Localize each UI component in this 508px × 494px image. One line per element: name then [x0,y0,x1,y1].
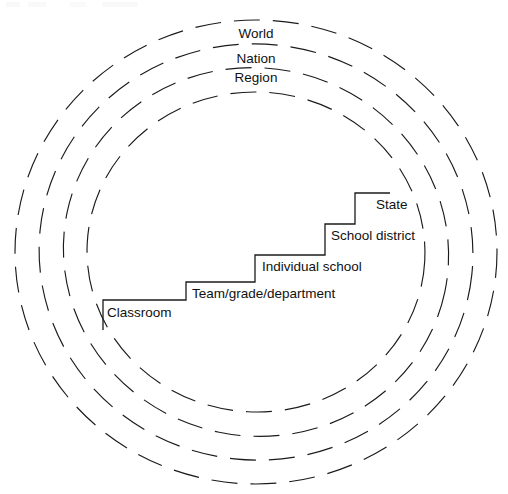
ring-label-world: World [238,26,273,41]
ring-label-nation: Nation [236,51,275,66]
step-label-team-grade-department: Team/grade/department [192,286,336,301]
region-ring [29,32,483,472]
step-label-classroom: Classroom [107,305,172,320]
step-label-individual-school: Individual school [262,259,362,274]
nation-ring [18,22,493,481]
step-label-state: State [376,197,408,212]
step-label-school-district: School district [331,228,415,243]
nested-systems-diagram: World Nation Region Classroom Team/grade… [0,0,508,494]
inner-ring [79,83,433,420]
diagram-canvas: World Nation Region Classroom Team/grade… [0,0,508,494]
ring-group [15,20,497,484]
ring-label-region: Region [235,70,278,85]
